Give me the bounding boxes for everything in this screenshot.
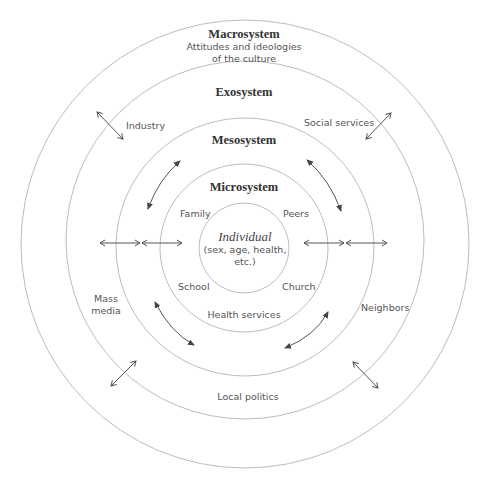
micro-item-school: School xyxy=(178,281,210,292)
micro-item-family: Family xyxy=(180,208,211,219)
exosystem-title: Exosystem xyxy=(216,85,274,99)
mass-media-arrow xyxy=(111,361,136,386)
micro-item-peers: Peers xyxy=(283,208,309,219)
individual-desc-line1: (sex, age, health, xyxy=(204,244,287,255)
individual-desc-line2: etc.) xyxy=(234,256,256,267)
exo-item-media: media xyxy=(91,305,121,316)
exo-item-mass: Mass xyxy=(94,293,118,304)
diagram-canvas: Macrosystem Attitudes and ideologies of … xyxy=(0,0,485,482)
exo-item-industry: Industry xyxy=(126,120,165,131)
microsystem-title: Microsystem xyxy=(210,180,279,194)
macrosystem-title: Macrosystem xyxy=(208,27,280,41)
exo-item-neighbors: Neighbors xyxy=(361,302,409,313)
macrosystem-desc-line1: Attitudes and ideologies xyxy=(186,41,301,52)
micro-item-church: Church xyxy=(282,281,316,292)
exo-item-local-politics: Local politics xyxy=(217,391,278,402)
meso-lower-left-arrow xyxy=(155,302,194,345)
neighbors-arrow xyxy=(353,362,378,388)
mesosystem-title: Mesosystem xyxy=(212,133,277,147)
meso-upper-right-arrow xyxy=(307,160,341,211)
micro-item-health-services: Health services xyxy=(207,309,280,320)
individual-title: Individual xyxy=(217,229,272,244)
exo-item-social-services: Social services xyxy=(304,117,374,128)
industry-arrow xyxy=(97,112,123,139)
ecological-systems-diagram: Macrosystem Attitudes and ideologies of … xyxy=(0,0,485,482)
macrosystem-desc-line2: of the culture xyxy=(212,53,276,64)
meso-upper-left-arrow xyxy=(148,161,180,209)
